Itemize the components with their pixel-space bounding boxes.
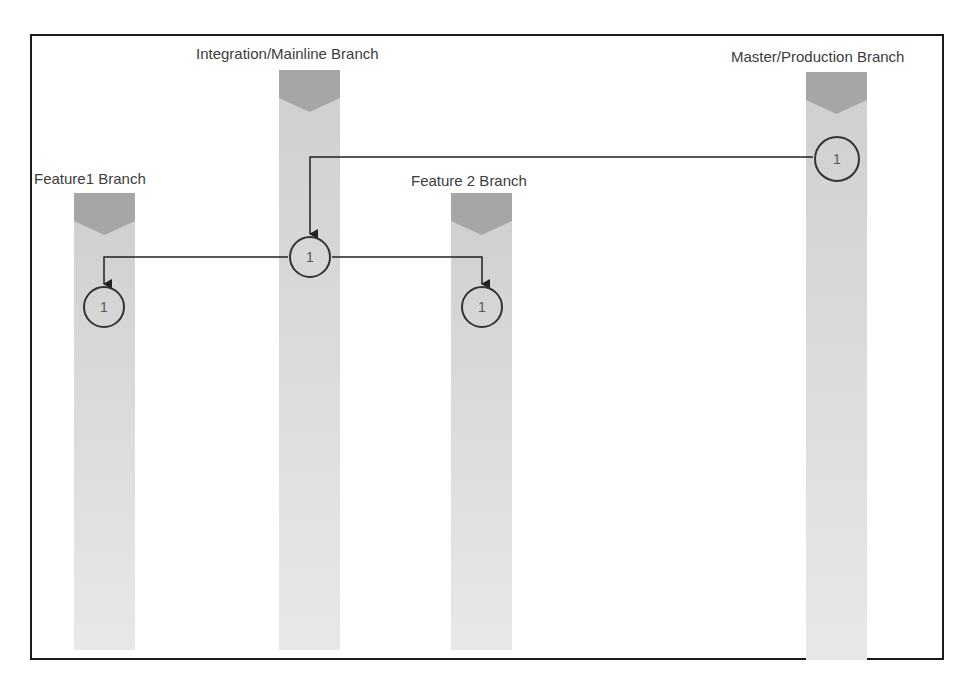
integration-commit-node[interactable]: 1 [289,236,331,278]
master-commit-node[interactable]: 1 [814,136,860,182]
feature2-commit-node[interactable]: 1 [461,286,503,328]
feature1-commit-node[interactable]: 1 [83,286,125,328]
connection-arrows [0,0,978,692]
